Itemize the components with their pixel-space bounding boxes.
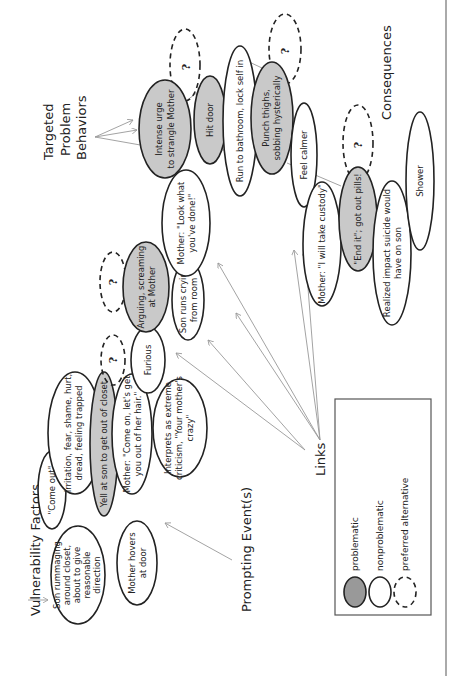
node-son-rummaging: Son rummaging around closet, about to gi…	[51, 526, 105, 624]
svg-text:around closet,: around closet,	[62, 545, 72, 606]
svg-text:Furious: Furious	[143, 344, 153, 375]
svg-text:?: ?	[107, 279, 120, 285]
svg-text:dread, feeling trapped: dread, feeling trapped	[74, 385, 84, 480]
svg-text:to strangle Mother: to strangle Mother	[166, 89, 176, 168]
node-interprets: Interprets as extreme criticism, "Your m…	[153, 376, 207, 480]
node-shower: Shower	[406, 112, 434, 250]
svg-text:Interprets as extreme: Interprets as extreme	[163, 382, 173, 474]
svg-text:from room: from room	[189, 278, 199, 322]
heading-targeted-problem-behaviors: Targeted Problem Behaviors	[41, 95, 89, 161]
svg-text:Hit door: Hit door	[205, 102, 215, 137]
node-end-it: "End it"; got out pills!	[339, 167, 377, 271]
heading-consequences: Consequences	[379, 25, 394, 120]
svg-text:Realized impact suicide would: Realized impact suicide would	[382, 189, 392, 317]
svg-text:Run to bathroom, lock self in: Run to bathroom, lock self in	[235, 60, 245, 182]
svg-text:?: ?	[352, 142, 365, 148]
svg-text:about to give: about to give	[72, 547, 82, 603]
legend-nonproblematic-label: nonproblematic	[375, 500, 385, 571]
node-punch-thighs: Punch thighs, sobbing hysterically	[251, 62, 293, 174]
svg-text:criticism, "Your mother's: criticism, "Your mother's	[174, 376, 184, 480]
svg-text:Son rummaging: Son rummaging	[52, 541, 62, 609]
chain-analysis-diagram: Vulnerability Factors Prompting Event(s)…	[0, 0, 452, 676]
node-intense-urge: Intense urge to strangle Mother	[139, 80, 191, 178]
svg-text:Yell at son to get out of clos: Yell at son to get out of closet	[99, 380, 109, 508]
legend-problematic-label: problematic	[350, 517, 360, 571]
svg-text:you've done!": you've done!"	[187, 193, 197, 253]
legend-problematic-swatch	[344, 577, 366, 607]
svg-text:Arguing, screaming: Arguing, screaming	[136, 246, 146, 329]
svg-text:Shower: Shower	[415, 165, 425, 197]
svg-text:Mother: "Come on, let's get: Mother: "Come on, let's get	[122, 375, 132, 493]
svg-text:Irritation, fear, shame, hurt,: Irritation, fear, shame, hurt,	[63, 374, 73, 493]
svg-text:Feel calmer: Feel calmer	[299, 130, 309, 180]
svg-text:direction: direction	[92, 556, 102, 593]
svg-text:?: ?	[279, 48, 292, 54]
svg-text:crazy": crazy"	[185, 415, 195, 442]
svg-text:"End it"; got out pills!: "End it"; got out pills!	[353, 173, 363, 265]
svg-text:reasonable: reasonable	[82, 552, 92, 599]
svg-text:Problem: Problem	[58, 103, 73, 156]
svg-text:Targeted: Targeted	[41, 104, 56, 161]
heading-prompting-events: Prompting Event(s)	[239, 487, 254, 612]
svg-text:Mother: "I will take custody": Mother: "I will take custody"	[317, 184, 327, 304]
svg-text:have on son: have on son	[393, 227, 403, 279]
svg-text:you out of her hair.": you out of her hair."	[133, 391, 143, 476]
svg-text:?: ?	[180, 64, 193, 70]
svg-text:Intense urge: Intense urge	[154, 102, 164, 156]
svg-text:at door: at door	[138, 547, 148, 578]
node-preferred-alt-arguing: ?	[100, 252, 126, 312]
node-mother-hovers: Mother hovers at door	[117, 521, 157, 605]
node-mother-look: Mother: "Look what you've done!"	[162, 170, 210, 276]
svg-text:Behaviors: Behaviors	[74, 95, 89, 160]
legend-preferred-label: preferred alternative	[400, 477, 410, 571]
legend-nonproblematic-swatch	[369, 577, 391, 607]
svg-text:Mother: "Look what: Mother: "Look what	[176, 181, 186, 264]
node-arguing: Arguing, screaming at Mother	[123, 242, 169, 332]
svg-text:Mother hovers: Mother hovers	[127, 532, 137, 594]
svg-text:sobbing hysterically: sobbing hysterically	[272, 75, 282, 160]
node-furious: Furious	[131, 327, 165, 393]
node-realized-impact: Realized impact suicide would have on so…	[373, 181, 411, 325]
svg-text:Punch thighs,: Punch thighs,	[261, 89, 271, 147]
svg-text:at Mother: at Mother	[147, 266, 157, 308]
svg-text:?: ?	[107, 357, 120, 363]
legend: problematic nonproblematic preferred alt…	[335, 399, 431, 615]
heading-links: Links	[313, 442, 328, 476]
node-hit-door: Hit door	[194, 76, 226, 164]
node-mother-custody: Mother: "I will take custody"	[303, 182, 341, 306]
